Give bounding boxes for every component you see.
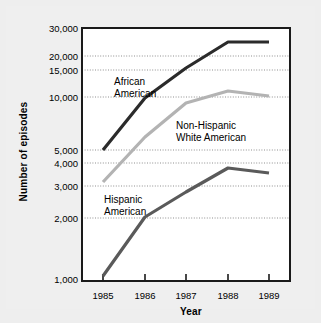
figure-inner-panel: 30,000 20,000 15,000 10,000 5,000 4,000 … xyxy=(6,6,315,309)
y-tick-label-3000: 3,000 xyxy=(24,181,78,192)
plot-area-background xyxy=(82,28,290,281)
series-annotation-african-american: African American xyxy=(114,76,156,100)
series-annotation-non-hispanic-white-line2: White American xyxy=(176,132,246,144)
y-tick-label-20000: 20,000 xyxy=(24,51,78,62)
y-tick-label-15000: 15,000 xyxy=(24,65,78,76)
series-annotation-non-hispanic-white-line1: Non-Hispanic xyxy=(176,120,246,132)
series-annotation-hispanic-american-line1: Hispanic xyxy=(104,194,146,206)
y-tick-label-2000: 2,000 xyxy=(24,213,78,224)
x-tick-label-1989: 1989 xyxy=(249,290,289,301)
series-annotation-hispanic-american: Hispanic American xyxy=(104,194,146,218)
series-annotation-african-american-line2: American xyxy=(114,88,156,100)
y-tick-label-4000: 4,000 xyxy=(24,158,78,169)
y-tick-label-30000: 30,000 xyxy=(24,23,78,34)
chart-figure: 30,000 20,000 15,000 10,000 5,000 4,000 … xyxy=(0,0,321,323)
y-tick-label-5000: 5,000 xyxy=(24,145,78,156)
x-tick-label-1985: 1985 xyxy=(83,290,123,301)
series-annotation-african-american-line1: African xyxy=(114,76,156,88)
x-axis-title: Year xyxy=(76,306,306,317)
y-axis-title: Number of episodes xyxy=(18,92,29,212)
y-tick-label-1000: 1,000 xyxy=(24,274,78,285)
y-tick-label-10000: 10,000 xyxy=(24,92,78,103)
series-annotation-hispanic-american-line2: American xyxy=(104,206,146,218)
x-tick-label-1987: 1987 xyxy=(166,290,206,301)
x-tick-label-1988: 1988 xyxy=(208,290,248,301)
series-annotation-non-hispanic-white-american: Non-Hispanic White American xyxy=(176,120,246,144)
x-tick-label-1986: 1986 xyxy=(125,290,165,301)
